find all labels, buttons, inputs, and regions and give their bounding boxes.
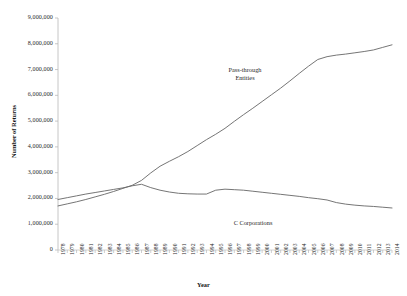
- chart-container: 9,000,0008,000,0007,000,0006,000,0005,00…: [0, 0, 407, 296]
- x-tick-label: 2000: [264, 243, 270, 255]
- x-tick-label: 2010: [357, 243, 363, 255]
- x-tick-label: 2006: [320, 243, 326, 255]
- x-tick-label: 1985: [125, 243, 131, 255]
- series-line-c-corporations: [58, 184, 392, 208]
- x-tick-label: 2001: [274, 243, 280, 255]
- x-tick-label: 1981: [88, 243, 94, 255]
- x-tick-label: 1982: [97, 243, 103, 255]
- x-tick-label: 1993: [199, 243, 205, 255]
- y-tick-label: 7,000,000: [9, 66, 53, 72]
- x-tick-label: 1991: [181, 243, 187, 255]
- series-label-pass-through-entities: Pass-through Entities: [205, 66, 285, 82]
- x-tick-label: 1992: [190, 243, 196, 255]
- x-tick-label: 2012: [376, 243, 382, 255]
- x-tick-label: 1998: [246, 243, 252, 255]
- y-tick-label: 3,000,000: [9, 169, 53, 175]
- x-tick-label: 1989: [162, 243, 168, 255]
- x-tick-label: 1995: [218, 243, 224, 255]
- x-tick-label: 1990: [172, 243, 178, 255]
- x-tick-label: 2007: [329, 243, 335, 255]
- y-tick-label: 8,000,000: [9, 40, 53, 46]
- x-tick-label: 1978: [60, 243, 66, 255]
- x-tick-label: 1984: [116, 243, 122, 255]
- x-tick-label: 2005: [311, 243, 317, 255]
- x-tick-label: 1980: [79, 243, 85, 255]
- x-tick-label: 2004: [301, 243, 307, 255]
- x-tick-label: 2014: [394, 243, 400, 255]
- x-tick-label: 1996: [227, 243, 233, 255]
- x-tick-label: 2009: [348, 243, 354, 255]
- y-tick-label: 0: [9, 246, 53, 252]
- x-tick-label: 1997: [236, 243, 242, 255]
- x-tick-label: 1987: [144, 243, 150, 255]
- x-tick-label: 1986: [134, 243, 140, 255]
- x-tick-label: 2013: [385, 243, 391, 255]
- y-axis-title: Number of Returns: [10, 97, 17, 167]
- x-tick-label: 2003: [292, 243, 298, 255]
- series-label-c-corporations: C Corporations: [213, 219, 293, 227]
- x-axis-title: Year: [0, 281, 407, 288]
- x-tick-label: 2002: [283, 243, 289, 255]
- x-tick-label: 2011: [366, 244, 372, 255]
- x-tick-label: 1994: [209, 243, 215, 255]
- y-tick-label: 1,000,000: [9, 220, 53, 226]
- x-tick-label: 1979: [69, 243, 75, 255]
- x-tick-label: 1999: [255, 243, 261, 255]
- x-tick-label: 1988: [153, 243, 159, 255]
- y-tick-label: 9,000,000: [9, 14, 53, 20]
- y-tick-label: 2,000,000: [9, 194, 53, 200]
- x-tick-label: 2008: [339, 243, 345, 255]
- x-tick-label: 1983: [107, 243, 113, 255]
